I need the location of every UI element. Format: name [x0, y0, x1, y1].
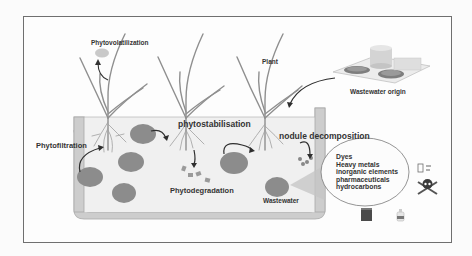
label-wastewater-origin: Wastewater origin — [350, 88, 406, 95]
label-phytofiltration: Phytofiltration — [36, 141, 87, 150]
bottle-icon — [397, 209, 404, 221]
barrel-icon — [361, 208, 372, 221]
label-phytodegradation: Phytodegradation — [170, 186, 234, 195]
label-wastewater: Wastewater — [263, 197, 299, 204]
skull-crossbones-icon — [418, 179, 437, 194]
vapor-cloud-icon — [95, 49, 109, 58]
label-phytovolatilization: Phytovolatilization — [91, 39, 148, 46]
pollutant-item: Dyes — [336, 153, 398, 161]
label-phytostabilisation: phytostabilisation — [178, 119, 251, 129]
wastewater-plant-icon — [333, 45, 430, 83]
label-plant: Plant — [262, 58, 278, 65]
pollutant-list: Dyes Heavy metals inorganic elements pha… — [336, 153, 398, 191]
pollutant-item: inorganic elements — [336, 168, 398, 176]
battery-icon — [418, 164, 431, 172]
label-nodule-decomposition: nodule decomposition — [279, 131, 370, 141]
pollutant-item: hydrocarbons — [336, 183, 398, 191]
pollutant-item: pharmaceuticals — [336, 176, 398, 184]
pollutant-item: Heavy metals — [336, 161, 398, 169]
